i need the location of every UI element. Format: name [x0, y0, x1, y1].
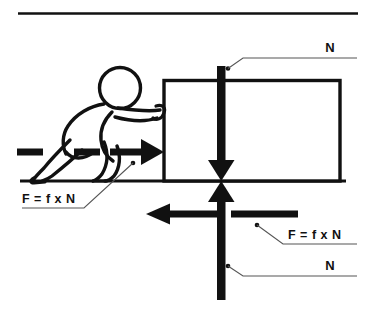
push-force-arrow-right	[17, 139, 164, 165]
push-force-dash-segment	[74, 149, 100, 156]
person-arm-lower	[115, 117, 157, 121]
person-arm-upper	[118, 108, 160, 111]
normal-force-arrow-up	[208, 181, 235, 300]
person-back	[63, 104, 104, 154]
friction-arrow-shaft	[163, 211, 218, 218]
normal-up-head	[208, 181, 235, 202]
person-leg-rear	[34, 140, 70, 179]
leader-path	[228, 266, 357, 276]
normal-up-shaft	[217, 196, 226, 300]
person-leg-front-back	[93, 142, 107, 181]
leader-normal-top	[226, 58, 357, 71]
normal-down-shaft	[217, 66, 226, 166]
push-force-arrow-head	[141, 139, 164, 165]
label-friction-left: F = f x N	[22, 192, 75, 206]
leader-normal-bottom	[226, 264, 357, 276]
friction-arrow-head	[146, 204, 170, 225]
friction-force-dash-segment	[231, 211, 298, 218]
label-normal-top: N	[325, 40, 334, 55]
push-force-dash-segment	[17, 149, 43, 156]
person-head	[100, 68, 141, 109]
leader-path	[228, 58, 357, 69]
block-rectangle	[164, 81, 340, 182]
person-pushing	[31, 68, 165, 184]
label-friction-right: F = f x N	[288, 228, 341, 242]
physics-friction-diagram: N N F = f x N F = f x N	[0, 0, 368, 317]
label-normal-bottom: N	[325, 258, 334, 273]
diagram-canvas: N N F = f x N F = f x N	[0, 0, 368, 317]
